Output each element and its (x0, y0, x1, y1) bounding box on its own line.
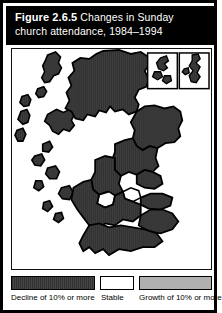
map-panel (11, 48, 212, 270)
map-inset-orkney[interactable] (148, 53, 178, 89)
figure-number: Figure 2.6.5 (15, 11, 77, 23)
legend-label-growth: Growth of 10% or more (139, 292, 217, 304)
scotland-choropleth-map (12, 49, 211, 269)
map-area-highland[interactable] (65, 50, 149, 120)
legend-swatch-row (11, 275, 212, 291)
map-inset-shetland[interactable] (179, 53, 209, 89)
figure-caption-band: Figure 2.6.5 Changes in Sunday church at… (6, 6, 217, 45)
legend-label-decline: Decline of 10% or more (11, 292, 95, 304)
legend-swatch-stable (100, 276, 134, 290)
caption-line-1: Figure 2.6.5 Changes in Sunday (15, 10, 210, 24)
map-legend: Decline of 10% or more Stable Growth of … (11, 275, 212, 308)
caption-line-2: church attendance, 1984–1994 (15, 24, 210, 38)
caption-line-1-text: Changes in Sunday (77, 11, 173, 23)
legend-label-row: Decline of 10% or more Stable Growth of … (11, 292, 212, 306)
map-area-lothian[interactable] (141, 194, 173, 210)
figure-frame: Figure 2.6.5 Changes in Sunday church at… (0, 0, 217, 313)
legend-label-stable: Stable (101, 292, 124, 304)
legend-swatch-growth (139, 276, 212, 290)
legend-swatch-decline (11, 276, 95, 290)
